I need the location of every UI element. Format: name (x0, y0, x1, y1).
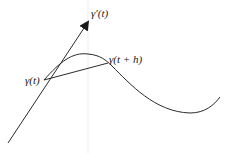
label-point-t: γ(t) (25, 75, 40, 86)
tangent-vector-line (8, 22, 88, 143)
secant-line (44, 63, 108, 80)
label-tangent-vector: γ′(t) (91, 8, 108, 19)
label-point-t-plus-h: γ(t + h) (109, 54, 142, 65)
